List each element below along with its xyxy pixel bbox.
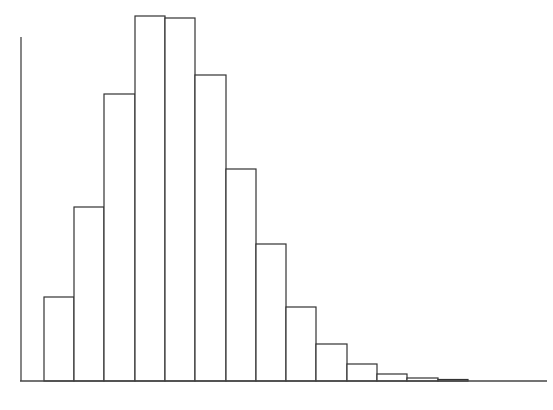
histogram-bar (256, 244, 286, 381)
histogram-bar (316, 344, 347, 381)
histogram-bar (226, 169, 256, 381)
histogram-bar (44, 297, 74, 381)
histogram-bar (195, 75, 226, 381)
histogram-bar (135, 16, 165, 381)
histogram-bar (104, 94, 135, 381)
histogram-bar (165, 18, 195, 381)
histogram-bar (74, 207, 104, 381)
histogram-chart (0, 0, 553, 410)
histogram-bars (44, 16, 468, 381)
histogram-bar (286, 307, 316, 381)
histogram-bar (377, 374, 407, 381)
histogram-bar (347, 364, 377, 381)
